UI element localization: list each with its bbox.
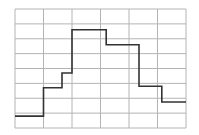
step-chart	[0, 0, 199, 135]
chart-grid	[15, 9, 186, 128]
